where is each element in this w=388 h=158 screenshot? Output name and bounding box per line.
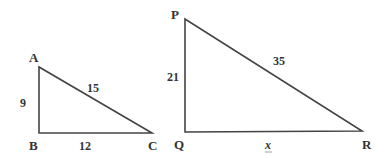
side-label-pq: 21 <box>167 70 179 84</box>
triangle-pqr-outline <box>185 19 362 132</box>
diagram-canvas: A B C 9 12 15 P Q R 21 x 35 <box>0 0 388 158</box>
side-label-qr: x <box>264 138 271 152</box>
diagram-svg: A B C 9 12 15 P Q R 21 x 35 <box>0 0 388 158</box>
vertex-label-q: Q <box>174 137 184 152</box>
side-label-bc: 12 <box>79 139 91 153</box>
vertex-label-a: A <box>29 50 39 65</box>
triangle-abc: A B C 9 12 15 <box>20 50 157 153</box>
vertex-label-p: P <box>171 7 179 22</box>
triangle-pqr: P Q R 21 x 35 <box>167 7 372 152</box>
vertex-label-c: C <box>148 138 157 153</box>
vertex-label-r: R <box>362 137 372 152</box>
vertex-label-b: B <box>29 138 38 153</box>
side-label-pr: 35 <box>273 54 285 68</box>
side-label-ab: 9 <box>20 96 26 110</box>
triangle-abc-outline <box>39 67 152 133</box>
side-label-ac: 15 <box>87 81 99 95</box>
